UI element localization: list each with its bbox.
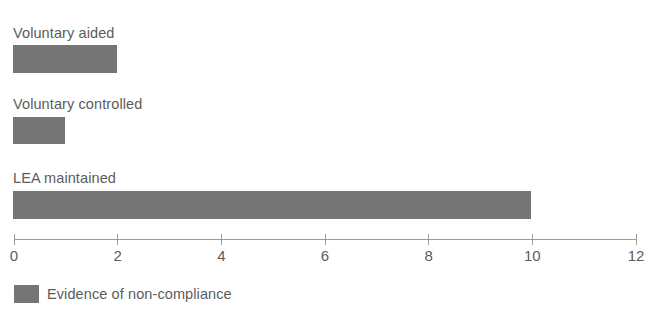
bar-lea-maintained [13,191,531,219]
x-axis-tick-label: 0 [10,247,18,264]
x-axis-tick-label: 10 [524,247,541,264]
x-axis-tick-label: 6 [321,247,329,264]
category-label-lea-maintained: LEA maintained [13,170,116,186]
category-label-voluntary-controlled: Voluntary controlled [13,96,142,112]
x-axis-tick-label: 2 [113,247,121,264]
x-axis-tick [117,234,118,245]
x-axis-tick [532,234,533,245]
bar-chart: Voluntary aided Voluntary controlled LEA… [0,0,653,325]
bar-voluntary-controlled [13,117,65,144]
category-label-voluntary-aided: Voluntary aided [13,25,114,41]
x-axis-tick [636,234,637,245]
x-axis-tick [428,234,429,245]
legend-label-evidence-of-non-compliance: Evidence of non-compliance [47,286,232,302]
x-axis-tick-label: 12 [628,247,645,264]
x-axis-tick-label: 8 [424,247,432,264]
x-axis-tick [221,234,222,245]
x-axis-tick [325,234,326,245]
legend-swatch-evidence-of-non-compliance [14,285,39,303]
x-axis-tick [14,234,15,245]
x-axis-tick-label: 4 [217,247,225,264]
bar-voluntary-aided [13,45,117,73]
